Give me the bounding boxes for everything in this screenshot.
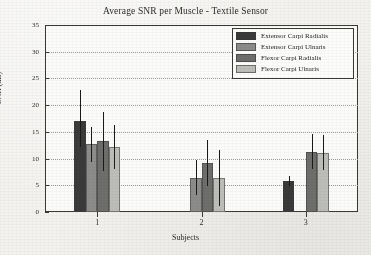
x-axis-label: Subjects [0, 233, 371, 242]
y-tick-mark [45, 52, 49, 53]
y-tick-label: 15 [23, 128, 39, 136]
x-tick-mark [97, 212, 98, 217]
y-tick-mark [45, 105, 49, 106]
x-tick-label: 3 [296, 218, 316, 227]
legend-item: Flexor Carpi Radialis [236, 53, 350, 63]
error-bar [323, 135, 324, 170]
y-tick-label: 20 [23, 101, 39, 109]
y-axis-label: SNR (dB) [0, 72, 3, 104]
error-bar [312, 134, 313, 169]
x-tick-label: 1 [87, 218, 107, 227]
gridline [45, 105, 358, 106]
error-bar [114, 125, 115, 169]
x-tick-mark [306, 212, 307, 217]
y-tick-mark [45, 159, 49, 160]
y-tick-mark [45, 132, 49, 133]
error-bar [103, 112, 104, 172]
chart-title: Average SNR per Muscle - Textile Sensor [0, 6, 371, 16]
y-tick-mark [45, 78, 49, 79]
y-tick-label: 35 [23, 21, 39, 29]
error-bar [289, 176, 290, 186]
error-bar [207, 140, 208, 186]
y-tick-label: 10 [23, 155, 39, 163]
legend-item: Flexor Carpi Ulnaris [236, 64, 350, 74]
legend-swatch [236, 43, 256, 51]
x-tick-mark [202, 212, 203, 217]
x-tick-label: 2 [192, 218, 212, 227]
legend-item: Extensor Carpi Radialis [236, 31, 350, 41]
error-bar [80, 90, 81, 147]
legend: Extensor Carpi RadialisExtensor Carpi Ul… [232, 28, 354, 79]
y-tick-mark [45, 185, 49, 186]
error-bar [91, 127, 92, 162]
legend-label: Flexor Carpi Ulnaris [261, 65, 319, 73]
legend-swatch [236, 65, 256, 73]
y-tick-label: 0 [23, 208, 39, 216]
error-bar [196, 160, 197, 195]
y-tick-label: 30 [23, 48, 39, 56]
y-tick-mark [45, 25, 49, 26]
legend-label: Extensor Carpi Radialis [261, 32, 328, 40]
legend-item: Extensor Carpi Ulnaris [236, 42, 350, 52]
y-tick-label: 5 [23, 181, 39, 189]
y-tick-label: 25 [23, 74, 39, 82]
legend-swatch [236, 54, 256, 62]
legend-label: Extensor Carpi Ulnaris [261, 43, 326, 51]
error-bar [219, 150, 220, 206]
y-tick-mark [45, 212, 49, 213]
legend-swatch [236, 32, 256, 40]
legend-label: Flexor Carpi Radialis [261, 54, 321, 62]
